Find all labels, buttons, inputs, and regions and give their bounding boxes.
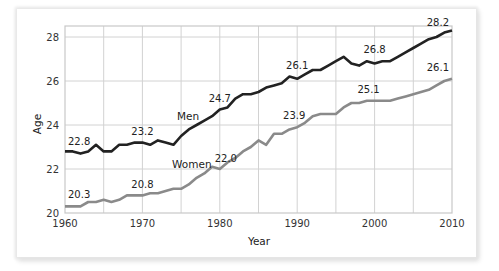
y-axis-title: Age: [31, 114, 43, 134]
data-point-label: 22.0: [215, 153, 237, 164]
x-tick-label: 1990: [284, 218, 309, 229]
x-tick-label: 1960: [52, 218, 77, 229]
y-axis-ticks: 2022242628: [46, 32, 59, 219]
data-point-label: 26.1: [286, 60, 308, 71]
y-tick-label: 28: [46, 32, 59, 43]
data-point-label: 20.3: [68, 189, 90, 200]
y-tick-label: 26: [46, 76, 59, 87]
x-axis-ticks: 196019701980199020002010: [52, 218, 464, 229]
y-tick-label: 22: [46, 164, 59, 175]
men-series-label: Men: [177, 110, 199, 122]
data-point-label: 22.8: [68, 136, 90, 147]
data-point-label: 23.2: [131, 126, 153, 137]
line-chart: 2022242628 196019701980199020002010 22.8…: [0, 0, 499, 271]
data-point-label: 20.8: [131, 179, 153, 190]
x-tick-label: 2010: [439, 218, 464, 229]
grid-lines: [65, 26, 452, 213]
x-axis-title: Year: [247, 235, 271, 247]
women-series-label: Women: [172, 158, 212, 170]
data-point-label: 25.1: [357, 84, 379, 95]
data-point-label: 24.7: [209, 93, 231, 104]
x-tick-label: 2000: [362, 218, 387, 229]
x-tick-label: 1980: [207, 218, 232, 229]
data-point-label: 28.2: [427, 17, 449, 28]
data-point-label: 26.1: [427, 62, 449, 73]
data-point-label: 26.8: [363, 44, 385, 55]
x-tick-label: 1970: [130, 218, 155, 229]
y-tick-label: 24: [46, 120, 59, 131]
data-point-label: 23.9: [283, 110, 305, 121]
